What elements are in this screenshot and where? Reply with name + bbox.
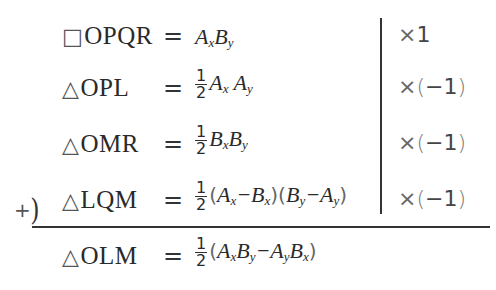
expression: 12(Ax−Bx)(By−Ay) [195, 180, 347, 213]
expression: AxBy [195, 24, 233, 51]
expression: 12BxBy [195, 124, 248, 157]
sum-bracket: ) [30, 192, 39, 227]
shape-label: △OMR [62, 130, 139, 158]
equals-sign: = [163, 22, 183, 50]
shape-label: △OPL [62, 74, 129, 102]
plus-sign: + [14, 198, 31, 222]
fraction-half: 12 [195, 68, 207, 101]
vertical-divider [380, 18, 382, 214]
expression: 12Ax Ay [195, 68, 253, 101]
multiplier: ×(−1) [398, 186, 466, 211]
triangle-icon: △ [62, 76, 79, 101]
fraction-half: 12 [195, 236, 207, 269]
shape-label: △OLM [62, 242, 137, 270]
fraction-half: 12 [195, 124, 207, 157]
triangle-icon: △ [62, 132, 79, 157]
triangle-icon: △ [62, 244, 79, 269]
equals-sign: = [163, 74, 183, 102]
triangle-icon: △ [62, 188, 79, 213]
square-icon: □ [62, 24, 83, 49]
expression: 12(AxBy−AyBx) [195, 236, 317, 269]
sum-line [32, 226, 490, 228]
multiplier: ×(−1) [398, 74, 466, 99]
equals-sign: = [163, 186, 183, 214]
multiplier: ×(−1) [398, 130, 466, 155]
multiplier: ×1 [398, 22, 430, 47]
equals-sign: = [163, 130, 183, 158]
equals-sign: = [163, 242, 183, 270]
shape-label: △LQM [62, 186, 137, 214]
fraction-half: 12 [195, 180, 207, 213]
shape-label: □OPQR [62, 22, 153, 50]
